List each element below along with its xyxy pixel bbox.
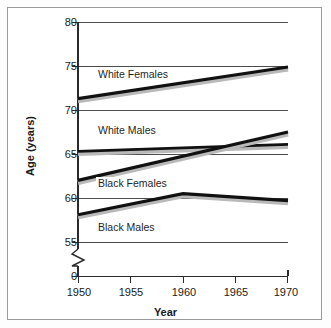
series-black-females bbox=[78, 132, 288, 182]
line-chart-plot bbox=[0, 0, 331, 328]
y-tick-label-55: 55 bbox=[51, 236, 77, 248]
axis-break-icon bbox=[72, 249, 84, 266]
series-white-males bbox=[78, 144, 288, 153]
y-axis-title: Age (years) bbox=[21, 96, 39, 196]
series-label-black-females: Black Females bbox=[96, 177, 169, 189]
y-tick-label-65: 65 bbox=[51, 148, 77, 160]
series-label-white-males: White Males bbox=[96, 124, 158, 136]
series-label-black-males: Black Males bbox=[96, 221, 157, 233]
x-tick-label-1960: 1960 bbox=[164, 286, 204, 298]
y-tick-label-0: 0 bbox=[51, 270, 77, 282]
x-tick-label-1955: 1955 bbox=[111, 286, 151, 298]
x-tick-label-1965: 1965 bbox=[216, 286, 256, 298]
y-axis-title-text: Age (years) bbox=[24, 116, 36, 176]
x-axis-title: Year bbox=[0, 306, 331, 318]
series-black-males bbox=[78, 194, 288, 217]
y-tick-label-75: 75 bbox=[51, 60, 77, 72]
figure-container: Age (years) 80 75 70 65 60 55 0 1950 195… bbox=[0, 0, 331, 328]
y-tick-label-80: 80 bbox=[51, 16, 77, 28]
y-tick-label-70: 70 bbox=[51, 104, 77, 116]
x-tick-label-1950: 1950 bbox=[59, 286, 99, 298]
series-label-white-females: White Females bbox=[96, 68, 170, 80]
y-tick-label-60: 60 bbox=[51, 192, 77, 204]
x-tick-label-1970: 1970 bbox=[266, 286, 306, 298]
